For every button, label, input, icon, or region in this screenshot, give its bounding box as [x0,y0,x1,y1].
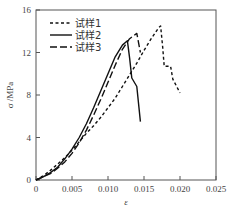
legend-label-1: 试样1 [75,17,101,29]
x-tick-label: 0.005 [62,184,83,194]
x-tick-label: 0.020 [170,184,191,194]
x-tick-label: 0.015 [134,184,155,194]
series-line-2 [36,41,140,180]
legend: 试样1试样2试样3 [50,17,101,53]
x-tick-label: 0.025 [206,184,227,194]
y-tick-label: 16 [22,5,32,15]
legend-label-3: 试样3 [75,41,101,53]
series-line-1 [36,26,180,180]
x-axis-ticks: 00.0050.0100.0150.0200.025 [34,176,227,194]
y-tick-label: 8 [27,90,32,100]
x-axis-title: ε [124,197,128,207]
stress-strain-chart: 0481216 00.0050.0100.0150.0200.025 试样1试样… [0,0,234,215]
y-axis-ticks: 0481216 [22,5,40,185]
x-tick-label: 0.010 [98,184,119,194]
y-tick-label: 4 [27,133,32,143]
y-tick-label: 0 [27,175,32,185]
legend-label-2: 试样2 [75,29,101,41]
y-tick-label: 12 [22,48,31,58]
series-layer [36,26,180,180]
series-line-3 [36,33,140,180]
x-tick-label: 0 [34,184,39,194]
y-axis-title: σ /MPa [5,82,15,109]
